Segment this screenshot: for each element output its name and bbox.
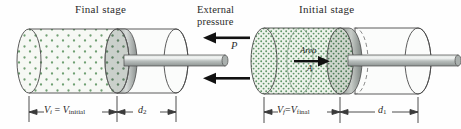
area-label-symbol: A	[307, 64, 312, 73]
left-rod-shaft	[124, 55, 225, 66]
pressure-arrow-upper-head	[203, 32, 216, 43]
area-label-text: Area	[300, 46, 316, 55]
left-piston-rod	[124, 55, 228, 66]
left-gas-chamber	[17, 29, 117, 93]
pressure-arrow-lower	[203, 73, 250, 84]
right-piston-rod	[348, 55, 461, 66]
left-d2-arrow-left	[117, 110, 125, 115]
pressure-arrow-lower-shaft	[212, 77, 250, 80]
right-dim-arrow-left	[264, 110, 272, 115]
left-barrel-left-cap	[17, 29, 41, 93]
right-d1-arrow-left	[340, 110, 348, 115]
left-d2-arrow-right	[168, 110, 176, 115]
piston-compression-diagram: Final stage Initial stage External press…	[0, 0, 461, 129]
left-d2-label: d2	[138, 105, 147, 116]
pressure-arrow-upper-shaft	[212, 37, 250, 40]
pressure-arrow-upper	[203, 32, 250, 43]
pressure-arrow-lower-head	[203, 73, 216, 84]
left-volume-v2-sub: initial	[69, 108, 85, 116]
right-d1-sub: 1	[383, 108, 387, 116]
left-d2-sub: 2	[143, 108, 147, 116]
left-dim-arrow-left	[29, 110, 37, 115]
external-pressure-line1: External	[197, 4, 234, 15]
left-rod-end-cap	[222, 55, 228, 66]
external-pressure-line2: pressure	[197, 16, 234, 27]
left-volume-v1-sub: i	[50, 108, 52, 116]
right-d1-arrow-right	[410, 110, 418, 115]
right-d1-label: d1	[378, 105, 387, 116]
right-rod-shaft	[348, 55, 458, 66]
right-volume-label: Vf=Vfinal	[277, 105, 310, 116]
left-volume-label: Vi = Vinitial	[44, 105, 85, 116]
pressure-symbol: P	[231, 40, 237, 51]
right-stage-title: Initial stage	[299, 4, 355, 16]
right-rod-end-cap	[455, 55, 461, 66]
left-volume-equals: =	[55, 104, 61, 115]
right-volume-v2-sub: final	[297, 108, 310, 116]
left-stage-title: Final stage	[75, 4, 126, 16]
right-barrel-left-cap	[251, 28, 277, 94]
